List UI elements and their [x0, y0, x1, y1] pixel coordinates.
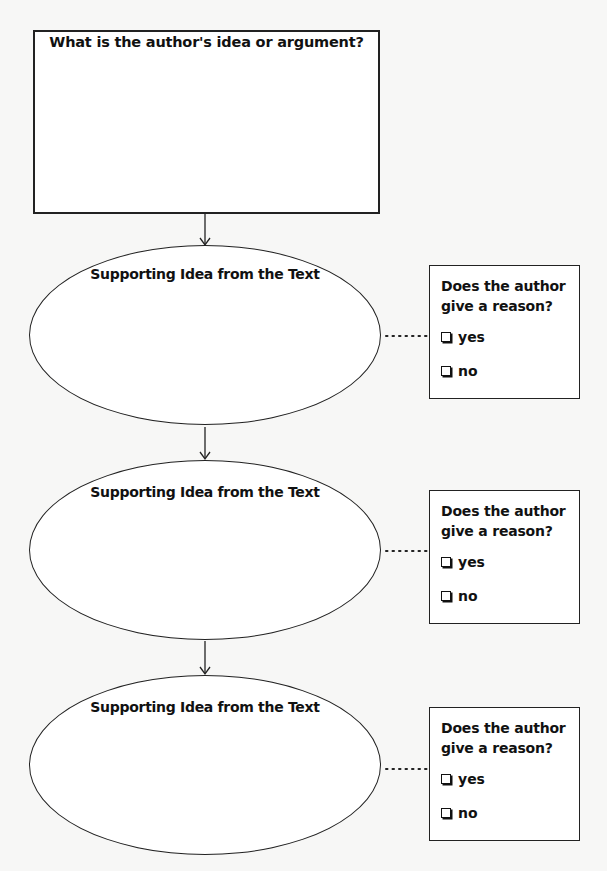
reason-question: Does the author give a reason? — [441, 501, 576, 541]
option-yes[interactable]: yes — [441, 329, 485, 345]
reason-box-2: Does the author give a reason? yes no — [429, 490, 580, 624]
checkbox-icon[interactable] — [441, 332, 451, 342]
supporting-idea-label: Supporting Idea from the Text — [30, 266, 380, 282]
option-no[interactable]: no — [441, 805, 478, 821]
supporting-idea-ellipse-3[interactable]: Supporting Idea from the Text — [29, 675, 381, 855]
reason-question: Does the author give a reason? — [441, 276, 576, 316]
supporting-idea-label: Supporting Idea from the Text — [30, 484, 380, 500]
checkbox-icon[interactable] — [441, 808, 451, 818]
option-yes[interactable]: yes — [441, 771, 485, 787]
author-argument-title: What is the author's idea or argument? — [35, 34, 378, 50]
author-argument-box[interactable]: What is the author's idea or argument? — [33, 30, 380, 214]
checkbox-icon[interactable] — [441, 366, 451, 376]
option-no[interactable]: no — [441, 363, 478, 379]
supporting-idea-ellipse-2[interactable]: Supporting Idea from the Text — [29, 460, 381, 640]
option-no[interactable]: no — [441, 588, 478, 604]
checkbox-icon[interactable] — [441, 557, 451, 567]
reason-box-1: Does the author give a reason? yes no — [429, 265, 580, 399]
checkbox-icon[interactable] — [441, 774, 451, 784]
option-yes[interactable]: yes — [441, 554, 485, 570]
option-yes-label: yes — [458, 554, 485, 570]
supporting-idea-label: Supporting Idea from the Text — [30, 699, 380, 715]
supporting-idea-ellipse-1[interactable]: Supporting Idea from the Text — [29, 245, 381, 425]
option-no-label: no — [458, 588, 478, 604]
option-yes-label: yes — [458, 329, 485, 345]
option-no-label: no — [458, 805, 478, 821]
checkbox-icon[interactable] — [441, 591, 451, 601]
option-no-label: no — [458, 363, 478, 379]
reason-question: Does the author give a reason? — [441, 718, 576, 758]
option-yes-label: yes — [458, 771, 485, 787]
reason-box-3: Does the author give a reason? yes no — [429, 707, 580, 841]
